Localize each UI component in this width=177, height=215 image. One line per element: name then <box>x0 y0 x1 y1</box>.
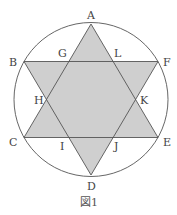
label-h: H <box>34 94 44 107</box>
label-c: C <box>9 136 17 149</box>
label-a: A <box>86 9 96 22</box>
label-d: D <box>87 180 96 193</box>
label-b: B <box>9 56 17 69</box>
label-f: F <box>163 56 171 69</box>
figure-caption: 図1 <box>80 196 98 209</box>
label-j: J <box>113 140 118 153</box>
hexagram-diagram: A B F C E D G L H K I J 図1 <box>0 0 177 215</box>
label-l: L <box>114 47 122 60</box>
label-i: I <box>60 140 64 153</box>
label-g: G <box>58 47 67 60</box>
label-e: E <box>163 136 171 149</box>
label-k: K <box>140 94 149 107</box>
